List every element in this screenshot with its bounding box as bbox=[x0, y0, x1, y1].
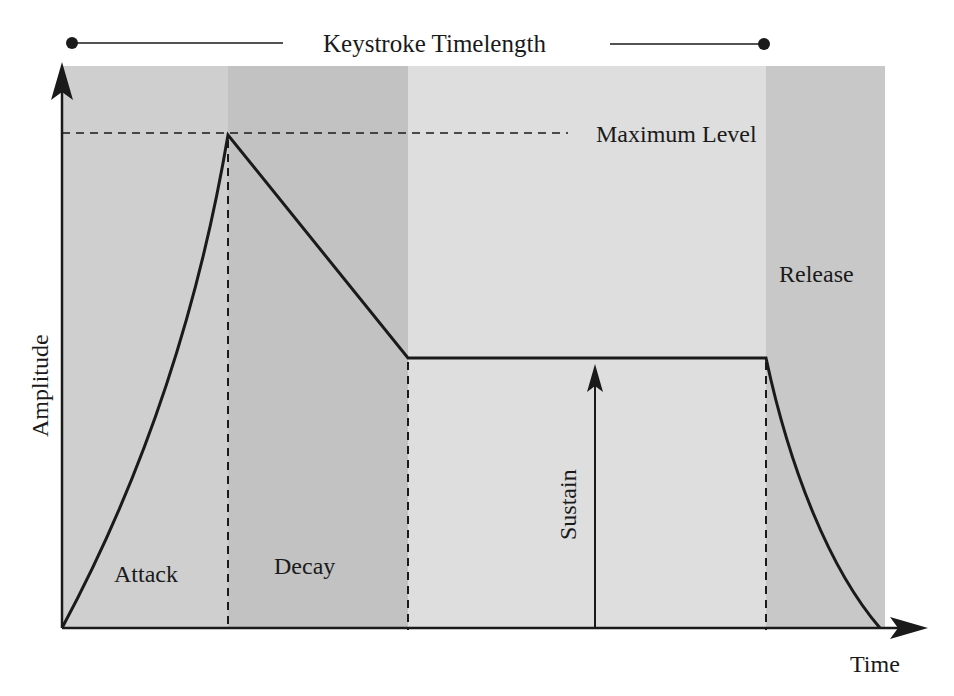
attack-band bbox=[62, 66, 228, 628]
x-axis-label: Time bbox=[850, 652, 900, 676]
attack-label: Attack bbox=[114, 562, 178, 586]
sustain-label: Sustain bbox=[556, 469, 580, 540]
y-axis-label: Amplitude bbox=[28, 334, 52, 437]
timeline-end-dot-icon bbox=[758, 38, 770, 50]
adsr-diagram bbox=[0, 0, 954, 696]
sustain-band bbox=[408, 66, 766, 628]
timeline-title: Keystroke Timelength bbox=[323, 31, 546, 56]
max-level-label: Maximum Level bbox=[596, 122, 757, 146]
release-label: Release bbox=[779, 262, 854, 286]
decay-band bbox=[228, 66, 408, 628]
decay-label: Decay bbox=[274, 554, 335, 578]
